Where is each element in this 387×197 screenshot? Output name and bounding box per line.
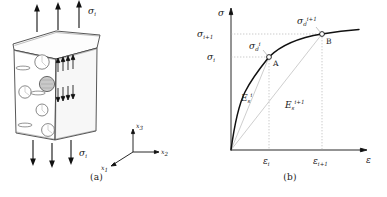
- figure-container: σi: [0, 0, 387, 197]
- x-axis-label: ε: [366, 155, 371, 165]
- top-stress-label: σi: [88, 6, 96, 17]
- y-axis-label: σ: [218, 8, 225, 18]
- x-tick-label-epsilon-i-plus-1: εi+1: [313, 156, 328, 167]
- chart-axes: [229, 8, 367, 152]
- x-axis-arrowhead: [360, 148, 367, 152]
- point-label-A: A: [272, 59, 279, 68]
- damage-stress-label-A: σdi: [249, 41, 261, 53]
- caption-panel-a: (a): [0, 172, 193, 182]
- y-tick-label-sigma-i: σi: [207, 52, 215, 63]
- caption-panel-b: (b): [193, 172, 387, 182]
- point-label-B: B: [326, 37, 332, 46]
- bottom-stress-arrows: [33, 140, 71, 164]
- bottom-stress-label: σi: [79, 148, 87, 159]
- shaded-inclusion: [39, 76, 54, 91]
- stress-strain-plot: σ ε A B: [193, 0, 387, 172]
- damage-stress-label-B: σdi+1: [297, 16, 317, 28]
- rve-drawing: σi: [0, 0, 193, 172]
- axis-label-x3: x3: [136, 122, 144, 131]
- x-tick-label-epsilon-i: εi: [263, 156, 270, 167]
- axis-label-x2: x2: [161, 148, 169, 157]
- coordinate-triad: [111, 129, 159, 166]
- y-tick-label-sigma-i-plus-1: σi+1: [197, 29, 213, 40]
- secant-modulus-label-i-plus-1: Esi+1: [284, 99, 305, 111]
- panel-b-stress-strain-chart: σ ε A B: [193, 0, 387, 197]
- panel-a-rve-diagram: σi: [0, 0, 193, 197]
- marker-leaders: [263, 27, 320, 55]
- y-axis-arrowhead: [229, 8, 233, 15]
